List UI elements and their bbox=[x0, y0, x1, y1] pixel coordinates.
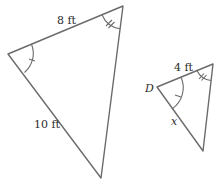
large-top-side-label: 8 ft bbox=[57, 14, 77, 27]
similar-triangles-diagram: 8 ft 10 ft 4 ft D x bbox=[0, 0, 217, 185]
large-left-side-label: 10 ft bbox=[34, 118, 61, 131]
large-triangle bbox=[8, 6, 123, 178]
small-left-side-label: x bbox=[171, 115, 178, 128]
large-top-right-angle-arc bbox=[102, 15, 120, 29]
large-left-angle-arc bbox=[25, 44, 34, 72]
large-triangle-outline bbox=[8, 6, 123, 178]
small-top-side-label: 4 ft bbox=[174, 61, 194, 74]
vertex-D-label: D bbox=[144, 82, 154, 95]
small-D-angle-arc bbox=[172, 77, 183, 109]
small-D-angle-tick bbox=[175, 95, 181, 97]
small-triangle bbox=[157, 64, 213, 151]
